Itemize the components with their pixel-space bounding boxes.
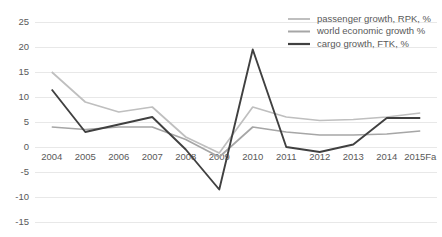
- y-axis-tick-label: -10: [15, 191, 29, 202]
- legend-item-label: cargo growth, FTK, %: [317, 38, 409, 49]
- x-axis-tick-label: 2008: [175, 151, 196, 162]
- y-axis-tick-label: 20: [18, 41, 29, 52]
- x-axis-tick-label: 2013: [343, 151, 364, 162]
- x-axis-tick-label: 2015Fa: [404, 151, 437, 162]
- y-axis-tick-label: 0: [24, 141, 29, 152]
- x-axis-tick-label: 2004: [41, 151, 62, 162]
- legend-item-label: world economic growth %: [316, 25, 426, 36]
- y-axis-tick-label: -15: [15, 216, 29, 227]
- legend-item-label: passenger growth, RPK, %: [317, 13, 432, 24]
- y-axis-tick-label: -5: [21, 166, 29, 177]
- line-chart: 2520151050-5-10-15 200420052006200720082…: [0, 0, 442, 237]
- y-axis-tick-label: 5: [24, 116, 29, 127]
- y-axis-tick-label: 10: [18, 91, 29, 102]
- x-axis-tick-label: 2006: [108, 151, 129, 162]
- x-axis-tick-label: 2014: [376, 151, 397, 162]
- x-axis-tick-label: 2007: [142, 151, 163, 162]
- x-axis-tick-label: 2005: [75, 151, 96, 162]
- y-axis-tick-label: 25: [18, 16, 29, 27]
- y-axis-tick-label: 15: [18, 66, 29, 77]
- x-axis-tick-label: 2010: [242, 151, 263, 162]
- chart-canvas: 2520151050-5-10-15 200420052006200720082…: [0, 0, 442, 237]
- x-axis-tick-label: 2011: [276, 151, 296, 162]
